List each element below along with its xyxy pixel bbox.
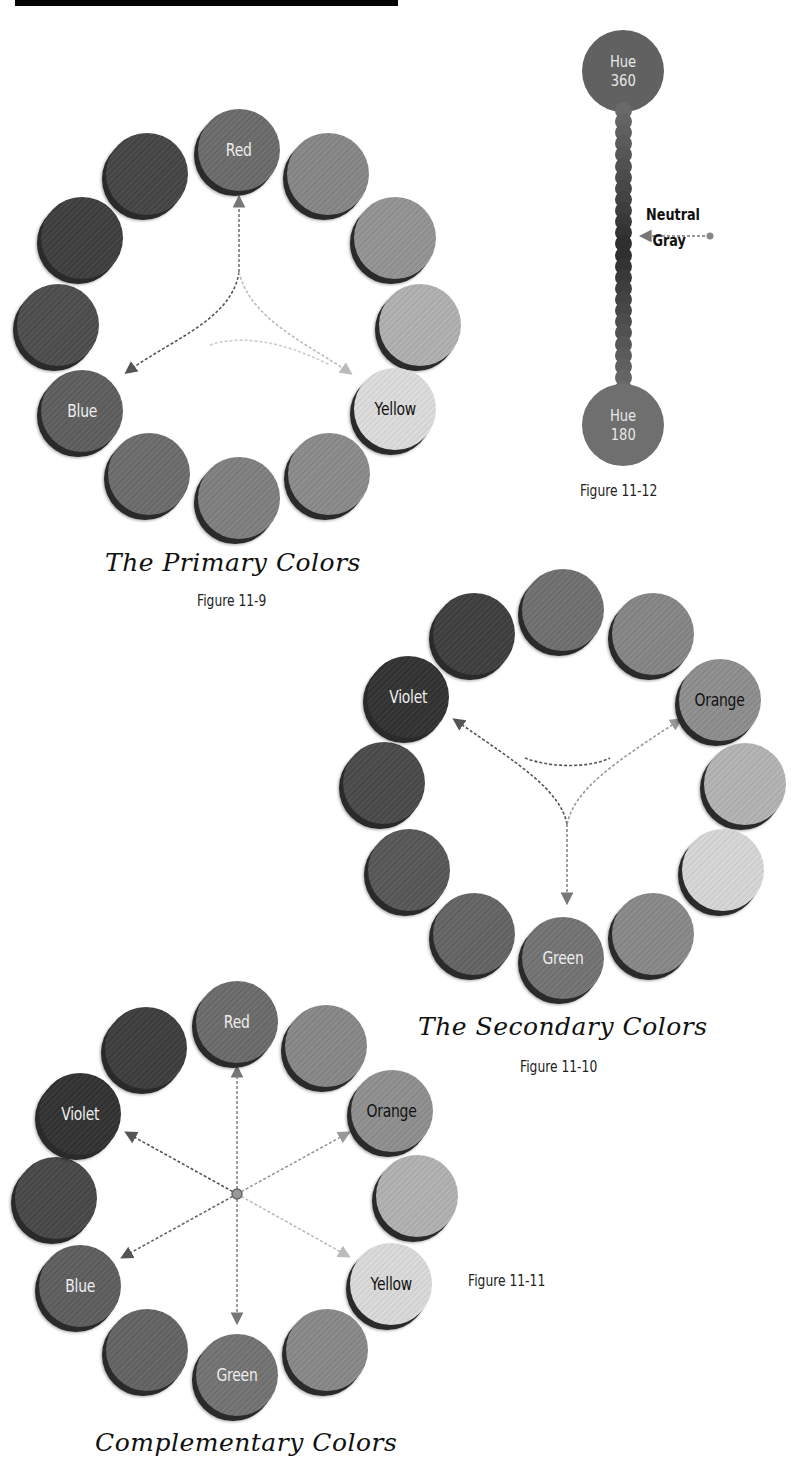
wheel3-disc-yellow: Yellow	[350, 1243, 432, 1325]
neutral-gray-label: Neutral Gray	[646, 206, 700, 250]
complementary-caption: Figure 11-11	[468, 1272, 545, 1290]
wheel1-disc	[354, 197, 436, 279]
hue-360-ball: Hue 360	[582, 30, 664, 112]
wheel3-disc-orange: Orange	[351, 1070, 433, 1152]
label-green: Green	[542, 948, 583, 968]
wheel3-disc-red: Red	[196, 981, 278, 1063]
wheel1-disc	[41, 197, 123, 279]
wheel2-disc	[522, 569, 604, 651]
hue-bar-caption: Figure 11-12	[580, 482, 657, 500]
label-orange: Orange	[695, 690, 745, 710]
secondary-arrows	[455, 720, 680, 902]
primary-arrows	[127, 198, 350, 373]
wheel2-disc-green: Green	[522, 917, 604, 999]
wheel2-disc-orange: Orange	[679, 659, 761, 741]
primary-title: The Primary Colors	[105, 548, 361, 577]
hue-180-ball: Hue 180	[582, 384, 664, 466]
label-yellow: Yellow	[374, 399, 415, 419]
primary-caption: Figure 11-9	[197, 592, 266, 610]
wheel2-disc	[368, 829, 450, 911]
wheel2-disc	[612, 893, 694, 975]
wheel1-disc	[288, 433, 370, 515]
wheel2-disc	[433, 893, 515, 975]
label-red: Red	[224, 1012, 250, 1032]
center-hub-icon	[232, 1189, 242, 1199]
wheel2-disc	[704, 743, 786, 825]
wheel3-disc	[286, 1309, 368, 1391]
label-red: Red	[226, 140, 252, 160]
wheel3-disc-green: Green	[196, 1334, 278, 1416]
wheel3-disc-blue: Blue	[39, 1245, 121, 1327]
label-orange: Orange	[367, 1101, 417, 1121]
secondary-title: The Secondary Colors	[418, 1012, 708, 1041]
wheel1-disc	[198, 457, 280, 539]
label-violet: Violet	[389, 687, 427, 707]
wheel3-disc	[106, 1309, 188, 1391]
label-green: Green	[216, 1365, 257, 1385]
label-blue: Blue	[65, 1276, 95, 1296]
wheel2-disc-violet: Violet	[367, 656, 449, 738]
label-violet: Violet	[61, 1104, 99, 1124]
label-yellow: Yellow	[370, 1274, 411, 1294]
complementary-title: Complementary Colors	[95, 1428, 397, 1457]
wheel1-disc-yellow: Yellow	[354, 368, 436, 450]
wheel3-disc	[15, 1157, 97, 1239]
wheel3-disc	[376, 1155, 458, 1237]
wheel1-disc	[17, 284, 99, 366]
wheel2-disc	[343, 742, 425, 824]
wheel2-disc	[433, 593, 515, 675]
wheel3-disc	[285, 1005, 367, 1087]
wheel1-disc-blue: Blue	[41, 370, 123, 452]
wheel1-disc	[379, 284, 461, 366]
wheel2-disc	[612, 593, 694, 675]
wheel1-disc	[108, 433, 190, 515]
wheel2-disc	[682, 829, 764, 911]
wheel1-disc	[106, 133, 188, 215]
label-blue: Blue	[67, 401, 97, 421]
wheel3-disc-violet: Violet	[39, 1073, 121, 1155]
wheel1-disc	[287, 133, 369, 215]
secondary-caption: Figure 11-10	[520, 1058, 597, 1076]
wheel3-disc	[105, 1007, 187, 1089]
wheel1-disc-red: Red	[198, 109, 280, 191]
